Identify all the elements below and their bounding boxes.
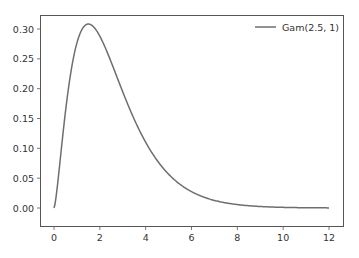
x-tick-label: 2 [97, 232, 103, 243]
x-tick-label: 8 [234, 232, 240, 243]
x-tick-label: 6 [188, 232, 194, 243]
x-tick-label: 4 [143, 232, 149, 243]
y-tick-label: 0.20 [13, 83, 34, 94]
y-tick-label: 0.25 [13, 53, 34, 64]
y-tick-label: 0.05 [13, 173, 34, 184]
y-tick-label: 0.00 [13, 203, 34, 214]
gamma-pdf-chart: 024681012 0.000.050.100.150.200.250.30 G… [0, 0, 359, 258]
y-tick-label: 0.30 [13, 24, 34, 35]
legend-label: Gam(2.5, 1) [282, 22, 339, 33]
y-tick-label: 0.10 [13, 143, 34, 154]
x-tick-label: 0 [51, 232, 57, 243]
x-tick-label: 10 [277, 232, 289, 243]
x-tick-label: 12 [323, 232, 335, 243]
y-tick-label: 0.15 [13, 113, 34, 124]
figure-background [0, 0, 359, 258]
